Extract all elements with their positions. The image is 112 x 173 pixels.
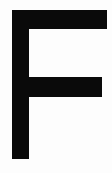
letter-f-glyph — [0, 0, 112, 173]
image-canvas — [0, 0, 112, 173]
letter-f-stem — [12, 10, 29, 159]
